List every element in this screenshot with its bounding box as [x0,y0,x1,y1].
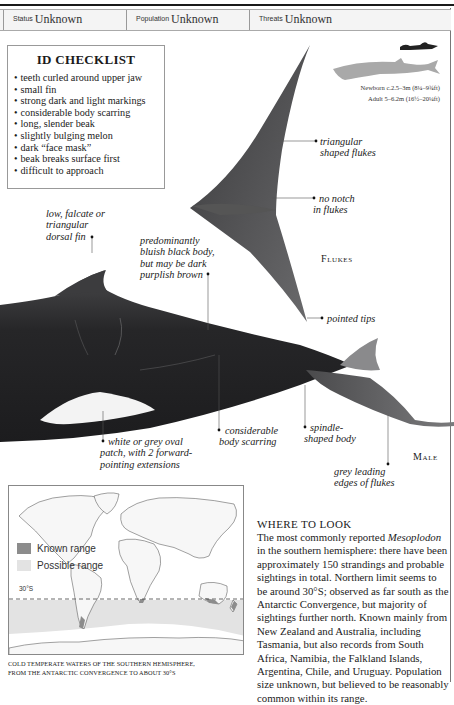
callout-body-color: predominantly bluish black body, but may… [140,235,215,281]
male-label: Male [413,451,438,462]
callout-line: considerable [225,425,278,436]
body-text: The most commonly reported [257,531,388,543]
adult-size: Adult 5–6.2m (16½–20¼ft) [368,95,440,102]
where-to-look-body: The most commonly reported Mesoplodon in… [257,531,449,705]
callout-line: white or grey oval [108,436,192,447]
id-checklist: ID CHECKLIST teeth curled around upper j… [7,45,165,189]
checklist-item: long, slender beak [14,118,158,130]
newborn-size: Newborn c.2.5–3m (8¼–9¾ft) [361,84,440,91]
checklist-item: strong dark and light markings [14,95,158,107]
callout-spindle-body: spindle- shaped body [310,422,356,445]
callout-line: edges of flukes [334,477,395,488]
checklist-item: slightly bulging melon [14,130,158,142]
callout-no-notch: no notch in flukes [313,193,355,216]
callout-white-patch: white or grey oval patch, with 2 forward… [108,436,192,470]
checklist-item: beak breaks surface first [14,153,158,165]
callout-line: triangular [320,136,376,147]
callout-line: but may be dark [140,258,215,269]
possible-range-swatch [17,560,31,571]
legend-possible-range: Possible range [17,560,103,571]
caption-line: FROM THE ANTARCTIC CONVERGENCE TO ABOUT … [8,669,248,678]
callout-line: bluish black body, [140,246,215,257]
latitude-label: 30°S [19,585,33,592]
map-caption: COLD TEMPERATE WATERS OF THE SOUTHERN HE… [8,660,248,677]
callout-line: triangular [46,219,105,230]
range-map: Known range Possible range 30°S [8,485,244,655]
callout-pointed-tips: pointed tips [327,313,375,324]
callout-dorsal-fin: low, falcate or triangular dorsal fin [46,208,105,242]
caption-line: COLD TEMPERATE WATERS OF THE SOUTHERN HE… [8,660,248,669]
checklist-item: difficult to approach [14,165,158,177]
checklist-item: small fin [14,84,158,96]
legend-label: Known range [37,543,96,554]
callout-line: in flukes [313,204,355,215]
legend-label: Possible range [37,560,103,571]
checklist-title: ID CHECKLIST [14,52,158,68]
checklist-item: teeth curled around upper jaw [14,72,158,84]
callout-line: pointed tips [327,313,375,324]
callout-line: shaped body [304,433,356,444]
known-range-swatch [17,543,31,554]
callout-line: grey leading [334,466,395,477]
legend-known-range: Known range [17,543,96,554]
body-text: in the southern hemisphere: there have b… [257,544,449,703]
callout-grey-edges: grey leading edges of flukes [334,466,395,489]
size-comparison-icon [333,42,440,80]
callout-line: patch, with 2 forward- [100,447,192,458]
callout-line: body scarring [219,436,278,447]
callout-line: shaped flukes [320,147,376,158]
flukes-label: Flukes [321,253,353,264]
callout-line: low, falcate or [46,208,105,219]
callout-line: pointing extensions [100,459,192,470]
callout-line: no notch [313,193,355,204]
checklist-item: dark “face mask” [14,142,158,154]
callout-line: dorsal fin [46,231,105,242]
callout-line: spindle- [310,422,356,433]
title-text: Where to Look [257,518,352,530]
checklist-item: considerable body scarring [14,107,158,119]
callout-line: predominantly [140,235,215,246]
callout-line: purplish brown [140,269,215,280]
where-to-look-title: Where to Look [257,518,352,530]
whale-body-illustration [0,270,454,442]
genus-name: Mesoplodon [388,531,441,543]
callout-body-scarring: considerable body scarring [225,425,278,448]
callout-triangular-flukes: triangular shaped flukes [320,136,376,159]
checklist-items: teeth curled around upper jaw small fin … [14,72,158,176]
